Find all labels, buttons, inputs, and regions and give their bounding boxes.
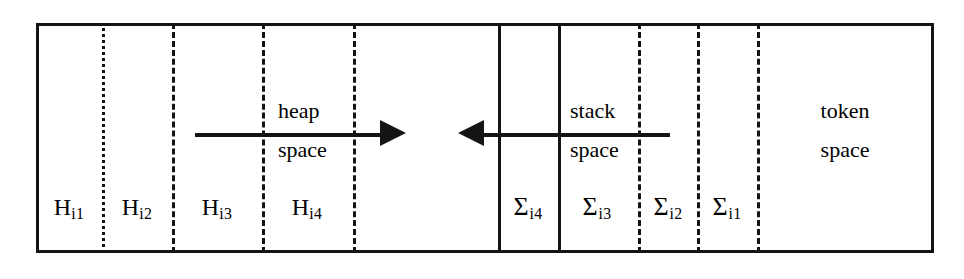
region-label-h-i3: Hi3 <box>202 195 232 222</box>
stack-growth-arrow-head-icon <box>458 120 484 146</box>
stack-space-label: stack space <box>570 96 619 166</box>
token-space-label-line2: space <box>821 135 870 165</box>
divider-after-sigma-i2 <box>697 23 700 253</box>
region-label-sigma-i2: Σi2 <box>653 194 682 222</box>
divider-after-sigma-i1 <box>757 23 760 253</box>
region-label-h-i2: Hi2 <box>122 195 152 222</box>
token-space-label: token space <box>821 96 870 166</box>
region-label-h-i1: Hi1 <box>54 195 84 222</box>
region-label-h-i4: Hi4 <box>292 195 322 222</box>
region-label-sigma-i1: Σi1 <box>712 194 741 222</box>
stack-space-label-line2: space <box>570 135 619 165</box>
region-label-sigma-i4-sub: i4 <box>530 205 543 222</box>
divider-after-h-i1 <box>102 23 105 253</box>
region-label-h-i4-sub: i4 <box>309 205 322 222</box>
heap-space-label-line2: space <box>278 135 327 165</box>
region-label-sigma-i4: Σi4 <box>513 194 542 222</box>
region-label-h-i2-base: H <box>122 194 139 220</box>
region-label-h-i2-sub: i2 <box>139 205 152 222</box>
stack-space-label-line1: stack <box>570 96 619 126</box>
region-label-sigma-i1-base: Σ <box>712 192 728 221</box>
region-label-h-i3-sub: i3 <box>219 205 232 222</box>
divider-after-sigma-i4 <box>558 23 561 253</box>
token-space-label-line1: token <box>821 96 870 126</box>
region-label-h-i1-sub: i1 <box>71 205 84 222</box>
heap-space-label-line1: heap <box>278 96 327 126</box>
heap-growth-arrow-head-icon <box>380 120 406 146</box>
region-label-h-i4-base: H <box>292 194 309 220</box>
region-label-sigma-i3-base: Σ <box>582 192 598 221</box>
region-label-sigma-i3: Σi3 <box>582 194 611 222</box>
memory-layout-diagram: heap space stack space token space Hi1 H… <box>0 0 964 279</box>
memory-outer-box <box>36 23 934 253</box>
region-label-h-i1-base: H <box>54 194 71 220</box>
region-label-sigma-i3-sub: i3 <box>599 205 612 222</box>
heap-space-label: heap space <box>278 96 327 166</box>
region-label-sigma-i2-base: Σ <box>653 192 669 221</box>
region-label-sigma-i2-sub: i2 <box>670 205 683 222</box>
divider-before-sigma-i4 <box>498 23 501 253</box>
divider-after-h-i4 <box>353 23 356 253</box>
region-label-h-i3-base: H <box>202 194 219 220</box>
divider-after-h-i2 <box>172 23 175 253</box>
region-label-sigma-i4-base: Σ <box>513 192 529 221</box>
divider-after-h-i3 <box>262 23 265 253</box>
region-label-sigma-i1-sub: i1 <box>729 205 742 222</box>
divider-after-sigma-i3 <box>638 23 641 253</box>
